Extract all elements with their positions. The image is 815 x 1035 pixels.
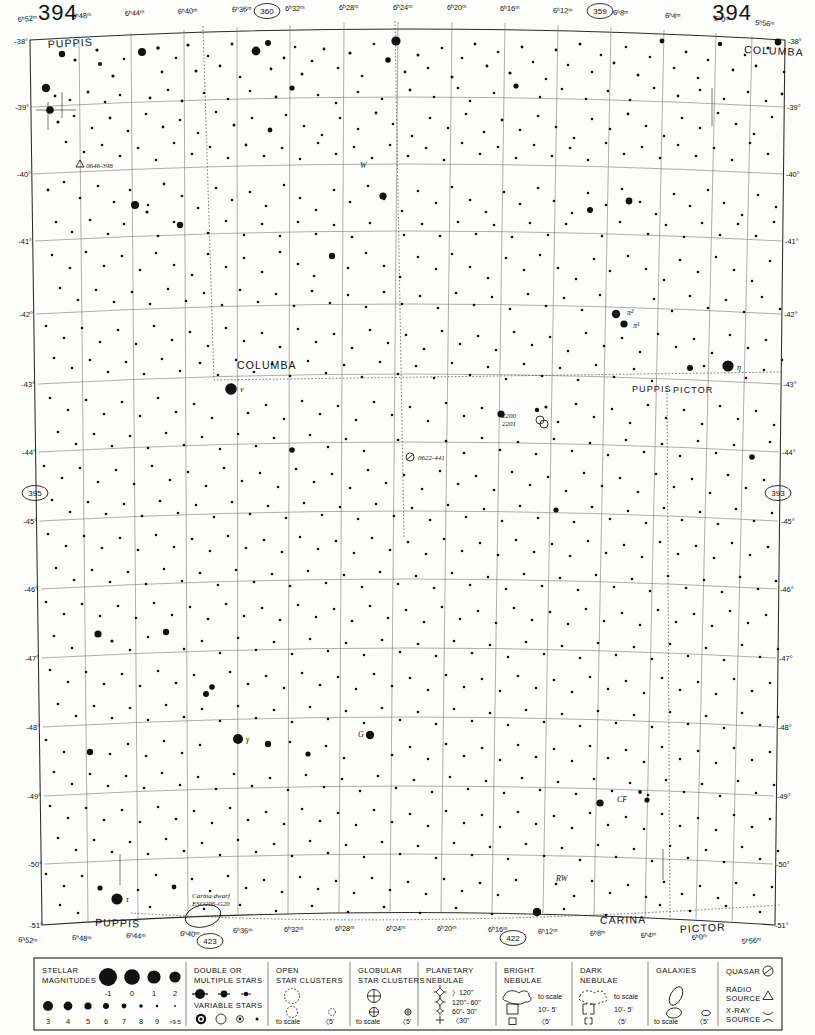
svg-text:1: 1 [152, 989, 156, 998]
svg-text:6ʰ20ᵐ: 6ʰ20ᵐ [447, 3, 466, 12]
svg-text:-40°: -40° [17, 170, 31, 179]
svg-text:-51°: -51° [775, 921, 789, 930]
svg-text:〈5': 〈5' [538, 1018, 550, 1025]
svg-text:6ʰ36ᵐ: 6ʰ36ᵐ [232, 5, 252, 14]
svg-text:6ʰ32ᵐ: 6ʰ32ᵐ [284, 925, 303, 934]
svg-text:422: 422 [506, 934, 520, 943]
svg-text:VARIABLE STARS: VARIABLE STARS [194, 1001, 262, 1010]
svg-text:〈5': 〈5' [614, 1018, 626, 1025]
svg-text:10'- 5': 10'- 5' [614, 1006, 633, 1013]
svg-text:395: 395 [28, 489, 42, 498]
svg-text:7: 7 [122, 1017, 126, 1026]
svg-text:0: 0 [130, 989, 134, 998]
svg-text:MULTIPLE STARS: MULTIPLE STARS [194, 976, 262, 985]
svg-text:RADIO: RADIO [726, 985, 752, 994]
svg-text:-48°: -48° [778, 723, 792, 732]
svg-text:OPEN: OPEN [276, 966, 299, 975]
constellation-label-puppis-bl: PUPPIS [95, 916, 141, 930]
svg-text:-43°: -43° [21, 380, 35, 389]
svg-text:-47°: -47° [25, 654, 39, 663]
object-label-2200: 2200 [502, 412, 517, 420]
svg-text:-49°: -49° [777, 792, 791, 801]
svg-text:120"- 60": 120"- 60" [452, 999, 481, 1006]
svg-text:-42°: -42° [784, 310, 798, 319]
svg-text:NEBULAE: NEBULAE [504, 976, 542, 985]
svg-text:STAR CLUSTERS: STAR CLUSTERS [276, 976, 343, 985]
svg-text:6ʰ24ᵐ: 6ʰ24ᵐ [386, 924, 405, 933]
svg-text:to scale: to scale [356, 1018, 380, 1025]
svg-text:-38°: -38° [14, 37, 28, 46]
svg-text:6ʰ48ᵐ: 6ʰ48ᵐ [72, 11, 92, 21]
svg-text:-49°: -49° [27, 792, 41, 801]
svg-text:-39°: -39° [15, 103, 29, 112]
svg-text:-45°: -45° [781, 517, 795, 526]
svg-text:-40°: -40° [786, 170, 800, 179]
svg-text:-44°: -44° [782, 448, 796, 457]
svg-text:to scale: to scale [614, 993, 638, 1000]
star-label-pi2: π² [627, 308, 634, 317]
svg-text:5ʰ56ᵐ: 5ʰ56ᵐ [741, 935, 761, 946]
svg-text:-50°: -50° [28, 860, 42, 869]
svg-text:to scale: to scale [654, 1018, 678, 1025]
svg-text:2: 2 [173, 989, 177, 998]
svg-text:6ʰ24ᵐ: 6ʰ24ᵐ [393, 3, 412, 12]
svg-text:SOURCE: SOURCE [726, 994, 761, 1003]
svg-text:〈5': 〈5' [399, 1018, 411, 1025]
svg-text:6ʰ48ᵐ: 6ʰ48ᵐ [72, 933, 92, 943]
svg-text:3: 3 [46, 1017, 50, 1026]
svg-text:6ʰ8ᵐ: 6ʰ8ᵐ [590, 928, 606, 938]
svg-text:5: 5 [86, 1017, 90, 1026]
svg-text:6ʰ40ᵐ: 6ʰ40ᵐ [180, 929, 200, 939]
svg-text:DARK: DARK [580, 966, 603, 975]
svg-text:-45°: -45° [23, 517, 37, 526]
star-chart-page: 394 394 [0, 0, 815, 1035]
svg-text:PLANETARY: PLANETARY [426, 966, 474, 975]
svg-text:STAR CLUSTERS: STAR CLUSTERS [358, 976, 425, 985]
star-label-RW: RW [555, 874, 569, 883]
svg-text:6ʰ0ᵐ: 6ʰ0ᵐ [714, 14, 730, 24]
svg-text:6ʰ44ᵐ: 6ʰ44ᵐ [126, 931, 146, 941]
svg-text:GLOBULAR: GLOBULAR [358, 966, 402, 975]
svg-text:SOURCE: SOURCE [726, 1015, 761, 1024]
svg-text:〈30": 〈30" [452, 1017, 470, 1024]
svg-text:〈5': 〈5' [322, 1018, 334, 1025]
svg-text:5ʰ56ᵐ: 5ʰ56ᵐ [755, 18, 775, 29]
svg-text:〈5': 〈5' [696, 1018, 708, 1025]
svg-text:-50°: -50° [776, 860, 790, 869]
svg-text:DOUBLE OR: DOUBLE OR [194, 966, 242, 975]
constellation-label-puppis-mid: PUPPIS [632, 384, 672, 394]
svg-text:-46°: -46° [780, 585, 794, 594]
svg-text:-42°: -42° [19, 310, 33, 319]
svg-text:6ʰ20ᵐ: 6ʰ20ᵐ [437, 924, 456, 933]
object-label-eso206-g20: ESO206-G20 [191, 900, 230, 908]
svg-text:423: 423 [203, 937, 217, 946]
svg-text:-1: -1 [105, 989, 112, 998]
svg-text:393: 393 [771, 489, 785, 498]
svg-text:60"- 30": 60"- 30" [452, 1008, 477, 1015]
object-label-2201: 2201 [502, 420, 516, 428]
svg-text:6ʰ32ᵐ: 6ʰ32ᵐ [285, 4, 304, 13]
svg-text:-48°: -48° [26, 723, 40, 732]
svg-text:6ʰ4ᵐ: 6ʰ4ᵐ [641, 930, 657, 940]
svg-text:NEBULAE: NEBULAE [580, 976, 618, 985]
globular-cluster-icon-large [368, 990, 381, 1003]
star-label-G: G [358, 730, 364, 739]
constellation-label-pictor-br: PICTOR [679, 921, 726, 935]
svg-text:-39°: -39° [787, 103, 801, 112]
svg-text:10'- 5': 10'- 5' [538, 1006, 557, 1013]
svg-text:9: 9 [155, 1017, 159, 1026]
svg-text:to scale: to scale [276, 1018, 300, 1025]
svg-text:to scale: to scale [538, 993, 562, 1000]
svg-text:-41°: -41° [18, 237, 32, 246]
svg-text:6ʰ12ᵐ: 6ʰ12ᵐ [538, 927, 558, 936]
svg-text:6ʰ36ᵐ: 6ʰ36ᵐ [233, 926, 253, 935]
svg-text:6ʰ28ᵐ: 6ʰ28ᵐ [339, 3, 358, 12]
svg-text:6ʰ4ᵐ: 6ʰ4ᵐ [665, 11, 681, 21]
svg-text:-43°: -43° [783, 380, 797, 389]
svg-text:BRIGHT: BRIGHT [504, 966, 535, 975]
globular-cluster-icon-small [369, 1007, 378, 1016]
svg-text:-51°: -51° [29, 921, 43, 930]
svg-text:〉120": 〉120" [452, 989, 474, 996]
svg-text:6ʰ52ᵐ: 6ʰ52ᵐ [17, 13, 37, 24]
object-label-0646-398: 0646-398 [86, 162, 113, 170]
